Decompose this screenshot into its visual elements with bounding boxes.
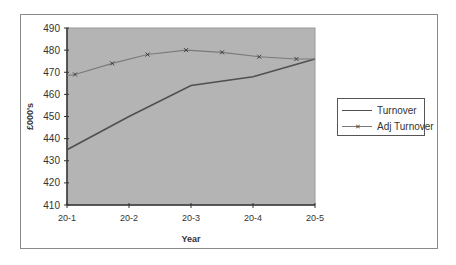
x-axis-title: Year xyxy=(181,234,201,244)
y-tick-label: 480 xyxy=(43,45,60,56)
x-tick-label: 20-3 xyxy=(182,213,200,223)
y-tick-label: 440 xyxy=(43,133,60,144)
legend-item-adj-turnover: ✕ Adj Turnover xyxy=(342,119,434,133)
x-tick-label: 20-1 xyxy=(58,213,76,223)
x-tick-label: 20-4 xyxy=(244,213,262,223)
y-tick-label: 490 xyxy=(43,23,60,34)
y-tick-label: 430 xyxy=(43,155,60,166)
plot-area xyxy=(67,28,315,205)
x-tick-label: 20-2 xyxy=(120,213,138,223)
y-tick-label: 460 xyxy=(43,89,60,100)
legend-item-turnover: Turnover xyxy=(342,103,417,117)
x-axis: 20-120-220-320-420-5 xyxy=(58,203,324,223)
x-marker-icon: ✕ xyxy=(355,123,361,130)
turnover-line-swatch-icon xyxy=(342,105,372,115)
legend: Turnover ✕ Adj Turnover xyxy=(337,98,425,136)
legend-label: Turnover xyxy=(377,105,417,116)
y-tick-label: 420 xyxy=(43,177,60,188)
y-axis-title: £000's xyxy=(25,103,35,130)
y-tick-label: 450 xyxy=(43,111,60,122)
legend-label: Adj Turnover xyxy=(377,121,434,132)
adj-turnover-line-swatch-icon: ✕ xyxy=(342,121,372,131)
y-tick-label: 410 xyxy=(43,200,60,211)
y-axis: 410420430440450460470480490 xyxy=(43,23,69,211)
y-tick-label: 470 xyxy=(43,67,60,78)
x-tick-label: 20-5 xyxy=(306,213,324,223)
